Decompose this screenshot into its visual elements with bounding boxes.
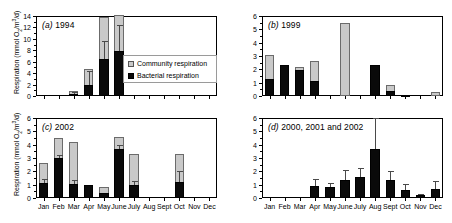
ytick-a-2	[33, 85, 36, 86]
xtick-a-Sept	[164, 96, 165, 99]
ytick-b-0	[259, 96, 262, 97]
bar-bacterial-c-Mar	[69, 184, 78, 198]
error-bar-a-Apr	[89, 71, 90, 84]
xtick-label-d-Mar: Mar	[294, 203, 306, 210]
bar-community-b-Dec	[431, 92, 440, 96]
xtick-label-c-June: June	[111, 203, 126, 210]
xtick-d-Sept	[390, 198, 391, 201]
ytick-d-0	[259, 198, 262, 199]
bar-bacterial-b-Mar	[295, 70, 304, 96]
xtick-label-d-July: July	[354, 203, 366, 210]
error-cap-d-Sept	[388, 171, 394, 172]
yminor-b-0	[260, 89, 262, 90]
ytick-d-6	[259, 118, 262, 119]
ytick-label-d-3: 3	[243, 155, 257, 162]
yminor-d-1	[260, 178, 262, 179]
bar-bacterial-b-Aug	[370, 65, 379, 96]
xtick-label-c-July: July	[128, 203, 140, 210]
ytick-d-4	[259, 145, 262, 146]
ytick-label-d-6: 6	[243, 115, 257, 122]
xtick-d-Dec	[435, 198, 436, 201]
panel-title-c: (c) 2002	[42, 122, 74, 132]
xtick-d-Nov	[420, 198, 421, 201]
bar-bacterial-c-July	[129, 185, 138, 198]
xtick-a-Mar	[74, 96, 75, 99]
xtick-d-July	[360, 198, 361, 201]
bar-bacterial-c-June	[114, 149, 123, 198]
error-cap-c-Feb	[57, 155, 63, 156]
error-bar-d-Aug	[375, 118, 376, 149]
bar-bacterial-b-Jan	[265, 79, 274, 96]
bar-bacterial-c-Jan	[39, 183, 48, 198]
yminor-d-2	[260, 165, 262, 166]
xtick-a-June	[119, 96, 120, 99]
error-bar-d-Sept	[390, 171, 391, 180]
error-cap-d-Oct	[403, 184, 409, 185]
ytick-c-0	[33, 198, 36, 199]
bar-bacterial-a-Apr	[84, 85, 93, 96]
yminor-a-4	[34, 45, 36, 46]
yminor-a-2	[34, 67, 36, 68]
yminor-c-5	[34, 125, 36, 126]
legend-label-bacterial: Bacterial respiration	[137, 72, 199, 79]
xtick-label-d-May: May	[323, 203, 336, 210]
xtick-b-May	[330, 96, 331, 99]
yminor-c-0	[34, 191, 36, 192]
error-cap-d-May	[328, 183, 334, 184]
bar-bacterial-b-Apr	[310, 81, 319, 96]
xtick-d-Jan	[270, 198, 271, 201]
bar-bacterial-b-Feb	[280, 65, 289, 96]
error-cap-d-June	[343, 170, 349, 171]
xtick-b-Mar	[300, 96, 301, 99]
legend-item-community: Community respiration	[128, 60, 207, 68]
legend-label-community: Community respiration	[137, 60, 207, 67]
ytick-label-b-0: 0	[243, 93, 257, 100]
xtick-c-June	[119, 198, 120, 201]
xtick-label-d-June: June	[337, 203, 352, 210]
error-cap-c-July	[132, 181, 138, 182]
yminor-b-1	[260, 76, 262, 77]
ytick-a-4	[33, 73, 36, 74]
ytick-label-b-3: 3	[243, 53, 257, 60]
xtick-a-July	[134, 96, 135, 99]
error-cap-c-Jan	[42, 179, 48, 180]
bar-bacterial-c-Feb	[54, 158, 63, 198]
ytick-label-b-4: 4	[243, 39, 257, 46]
legend-item-bacterial: Bacterial respiration	[128, 72, 199, 80]
yminor-a-0	[34, 90, 36, 91]
bar-bacterial-d-Dec	[431, 189, 440, 198]
yminor-d-3	[260, 151, 262, 152]
xtick-a-Dec	[209, 96, 210, 99]
xtick-label-d-Feb: Feb	[279, 203, 291, 210]
xtick-c-July	[134, 198, 135, 201]
bar-bacterial-b-Oct	[401, 95, 410, 97]
ytick-b-2	[259, 69, 262, 70]
xtick-c-Jan	[44, 198, 45, 201]
xtick-b-July	[360, 96, 361, 99]
xtick-label-d-Nov: Nov	[414, 203, 426, 210]
ytick-d-3	[259, 158, 262, 159]
xtick-a-Jan	[44, 96, 45, 99]
error-cap-c-June	[117, 145, 123, 146]
ytick-label-b-6: 6	[243, 13, 257, 20]
bar-bacterial-d-Apr	[310, 186, 319, 198]
error-bar-d-June	[345, 170, 346, 180]
bar-bacterial-d-Oct	[401, 190, 410, 198]
xtick-b-Aug	[375, 96, 376, 99]
ytick-label-d-5: 5	[243, 128, 257, 135]
error-bar-d-Dec	[435, 181, 436, 189]
bar-bacterial-a-Mar	[69, 94, 78, 96]
xtick-label-d-Dec: Dec	[429, 203, 441, 210]
error-cap-a-May	[102, 41, 108, 42]
ytick-a-6	[33, 62, 36, 63]
xtick-c-Nov	[194, 198, 195, 201]
ytick-c-6	[33, 118, 36, 119]
yminor-c-4	[34, 138, 36, 139]
ytick-b-3	[259, 56, 262, 57]
error-bar-a-May	[104, 41, 105, 60]
xtick-d-May	[330, 198, 331, 201]
ytick-b-4	[259, 43, 262, 44]
yminor-a-5	[34, 33, 36, 34]
ytick-d-5	[259, 131, 262, 132]
xtick-c-Dec	[209, 198, 210, 201]
